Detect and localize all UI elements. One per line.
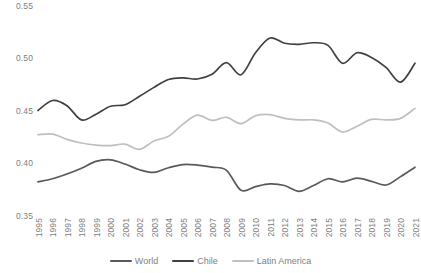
x-axis-tick-label: 2009: [238, 218, 247, 237]
x-axis-tick-label: 2014: [310, 218, 319, 237]
x-axis-tick-label: 1998: [78, 218, 87, 237]
legend-swatch-icon: [232, 260, 254, 262]
x-axis-tick-label: 2001: [122, 218, 131, 237]
x-axis-tick-label: 2019: [383, 218, 392, 237]
legend-label: Chile: [197, 256, 218, 266]
x-axis-tick-label: 1997: [64, 218, 73, 237]
x-axis-tick-label: 2005: [180, 218, 189, 237]
legend-label: Latin America: [257, 256, 312, 266]
x-axis-tick-label: 2013: [296, 218, 305, 237]
legend-swatch-icon: [172, 260, 194, 262]
line-chart: 0.550.500.450.400.35 1995199619971998199…: [0, 0, 421, 273]
legend-label: World: [135, 256, 158, 266]
x-axis-tick-label: 2002: [136, 218, 145, 237]
x-axis-tick-label: 2011: [267, 218, 276, 237]
x-axis-tick-label: 1999: [93, 218, 102, 237]
x-axis-tick-label: 2016: [339, 218, 348, 237]
y-axis-tick-label: 0.45: [16, 107, 33, 116]
y-axis: 0.550.500.450.400.35: [0, 0, 36, 225]
x-axis: 1995199619971998199920002001200220032004…: [38, 218, 415, 250]
x-axis-tick-label: 2012: [281, 218, 290, 237]
x-axis-tick-label: 2008: [223, 218, 232, 237]
series-line-chile: [38, 38, 415, 120]
legend-item-chile[interactable]: Chile: [172, 256, 218, 266]
legend-item-world[interactable]: World: [110, 256, 158, 266]
x-axis-tick-label: 1996: [49, 218, 58, 237]
series-canvas: [38, 6, 415, 216]
x-axis-tick-label: 2007: [209, 218, 218, 237]
y-axis-tick-label: 0.35: [16, 212, 33, 221]
plot-area: [38, 6, 415, 216]
x-axis-tick-label: 2004: [165, 218, 174, 237]
chart-legend: WorldChileLatin America: [0, 252, 421, 270]
x-axis-tick-label: 2015: [325, 218, 334, 237]
x-axis-tick-label: 2020: [397, 218, 406, 237]
y-axis-tick-label: 0.55: [16, 2, 33, 11]
x-axis-tick-label: 2017: [354, 218, 363, 237]
legend-swatch-icon: [110, 260, 132, 262]
x-axis-tick-label: 2006: [194, 218, 203, 237]
x-axis-tick-label: 2021: [412, 218, 421, 237]
series-line-world: [38, 160, 415, 192]
x-axis-tick-label: 2010: [252, 218, 261, 237]
x-axis-tick-label: 2003: [151, 218, 160, 237]
x-axis-tick-label: 1995: [35, 218, 44, 237]
x-axis-tick-label: 2000: [107, 218, 116, 237]
y-axis-tick-label: 0.50: [16, 54, 33, 63]
x-axis-tick-label: 2018: [368, 218, 377, 237]
legend-item-latin-america[interactable]: Latin America: [232, 256, 312, 266]
y-axis-tick-label: 0.40: [16, 159, 33, 168]
